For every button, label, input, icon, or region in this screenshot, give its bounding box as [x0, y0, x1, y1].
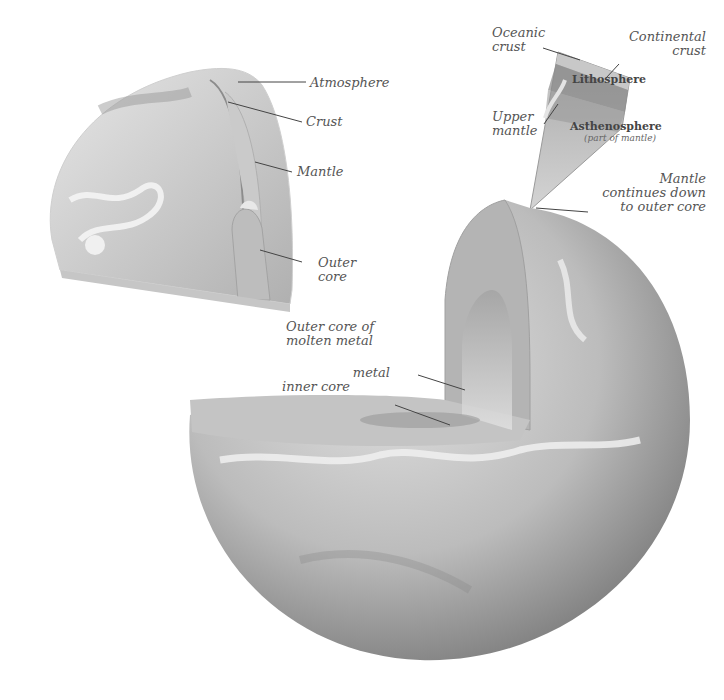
label-mantle-continues-l3: to outer core [560, 200, 706, 214]
label-outer-core-molten-l1: Outer core of [286, 320, 374, 334]
label-inner-core-l2: inner core [282, 380, 350, 394]
label-outer-core-l1: Outer [318, 256, 356, 270]
earth-layers-diagram: Atmosphere Crust Mantle Outer core Ocean… [0, 0, 724, 700]
label-outer-core-molten-l2: molten metal [286, 334, 373, 348]
label-mantle-continues-l1: Mantle [560, 172, 706, 186]
label-inner-core-l1: metal [270, 366, 390, 380]
label-mantle-continues-l2: continues down [560, 186, 706, 200]
label-asthenosphere: Asthenosphere [570, 120, 662, 134]
label-oceanic-crust-l2: crust [492, 40, 526, 54]
label-outer-core-l2: core [318, 270, 347, 284]
label-asthenosphere-note: (part of mantle) [584, 134, 656, 143]
label-upper-mantle-l2: mantle [492, 124, 538, 138]
label-crust: Crust [306, 115, 342, 129]
label-upper-mantle-l1: Upper [492, 110, 534, 124]
label-oceanic-crust-l1: Oceanic [492, 26, 545, 40]
label-mantle: Mantle [297, 165, 344, 179]
diagram-artwork [0, 0, 724, 700]
label-continental-crust-l2: crust [574, 44, 706, 58]
label-continental-crust-l1: Continental [574, 30, 706, 44]
label-lithosphere: Lithosphere [572, 73, 646, 87]
label-atmosphere: Atmosphere [310, 76, 390, 90]
small-cutaway [50, 68, 292, 312]
